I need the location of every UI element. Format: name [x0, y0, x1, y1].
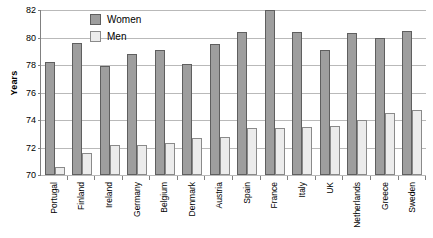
x-axis-label-france: France [270, 182, 279, 208]
bar-women-portugal [45, 62, 55, 175]
x-label-cell: Ireland [95, 180, 123, 238]
x-axis-label-ireland: Ireland [105, 182, 114, 208]
bar-group-austria [206, 10, 234, 175]
x-axis-label-greece: Greece [380, 182, 389, 210]
legend-label-women: Women [107, 15, 141, 25]
bar-women-denmark [182, 64, 192, 175]
x-label-cell: Greece [371, 180, 399, 238]
bar-women-finland [72, 43, 82, 175]
x-label-cell: Belgium [150, 180, 178, 238]
y-tick-label-82: 82 [9, 6, 36, 15]
bar-men-italy [302, 127, 312, 175]
bar-men-spain [247, 128, 257, 175]
bar-women-spain [237, 32, 247, 175]
x-label-cell: France [261, 180, 289, 238]
x-axis-label-belgium: Belgium [160, 182, 169, 213]
bar-women-ireland [100, 66, 110, 175]
x-axis-label-finland: Finland [77, 182, 86, 210]
bar-group-spain [234, 10, 262, 175]
legend-swatch-women [90, 14, 101, 25]
x-label-cell: UK [316, 180, 344, 238]
bar-men-denmark [192, 138, 202, 175]
x-label-cell: Italy [288, 180, 316, 238]
legend-label-men: Men [107, 32, 126, 42]
x-axis-label-sweden: Sweden [408, 182, 417, 213]
bar-women-sweden [402, 31, 412, 175]
bar-men-belgium [165, 143, 175, 175]
bar-group-greece [371, 10, 399, 175]
bar-group-sweden [399, 10, 427, 175]
bar-women-belgium [155, 50, 165, 175]
y-tick-label-80: 80 [9, 33, 36, 42]
x-label-cell: Denmark [178, 180, 206, 238]
legend-swatch-men [90, 31, 101, 42]
bar-men-france [275, 128, 285, 175]
bar-women-greece [375, 38, 385, 176]
x-axis-label-uk: UK [325, 182, 334, 194]
bar-group-netherlands [344, 10, 372, 175]
bar-group-france [261, 10, 289, 175]
x-axis-label-italy: Italy [298, 182, 307, 198]
bar-men-netherlands [357, 120, 367, 175]
x-axis-label-spain: Spain [243, 182, 252, 204]
x-label-cell: Spain [233, 180, 261, 238]
bar-women-netherlands [347, 33, 357, 175]
bar-men-sweden [412, 110, 422, 175]
x-label-cell: Portugal [40, 180, 68, 238]
bar-women-austria [210, 44, 220, 175]
legend-item-women: Women [90, 14, 141, 25]
x-axis-label-portugal: Portugal [50, 182, 59, 214]
bar-men-ireland [110, 145, 120, 175]
x-axis-label-netherlands: Netherlands [353, 182, 362, 228]
bar-men-portugal [55, 167, 65, 175]
y-tick-label-76: 76 [9, 88, 36, 97]
chart-legend: WomenMen [90, 14, 141, 48]
x-label-cell: Netherlands [343, 180, 371, 238]
bar-group-uk [316, 10, 344, 175]
y-tick-label-78: 78 [9, 61, 36, 70]
y-tick-label-70: 70 [9, 171, 36, 180]
x-label-cell: Germany [123, 180, 151, 238]
x-label-cell: Austria [205, 180, 233, 238]
bar-group-belgium [151, 10, 179, 175]
bar-men-austria [220, 137, 230, 176]
bar-women-france [265, 10, 275, 175]
bar-men-uk [330, 126, 340, 176]
bar-women-germany [127, 54, 137, 175]
bar-men-greece [385, 113, 395, 175]
x-axis-label-austria: Austria [215, 182, 224, 208]
bar-women-uk [320, 50, 330, 175]
legend-item-men: Men [90, 31, 141, 42]
bar-women-italy [292, 32, 302, 175]
y-tick-label-72: 72 [9, 143, 36, 152]
bar-men-germany [137, 145, 147, 175]
x-label-cell: Sweden [399, 180, 427, 238]
x-axis-label-denmark: Denmark [187, 182, 196, 216]
x-axis-labels: PortugalFinlandIrelandGermanyBelgiumDenm… [40, 180, 426, 238]
bar-group-portugal [41, 10, 69, 175]
x-label-cell: Finland [68, 180, 96, 238]
x-axis-label-germany: Germany [132, 182, 141, 217]
bar-men-finland [82, 153, 92, 175]
bar-group-denmark [179, 10, 207, 175]
y-tick-label-74: 74 [9, 116, 36, 125]
bar-chart: Years 70727476788082 PortugalFinlandIrel… [0, 0, 433, 238]
bar-group-italy [289, 10, 317, 175]
